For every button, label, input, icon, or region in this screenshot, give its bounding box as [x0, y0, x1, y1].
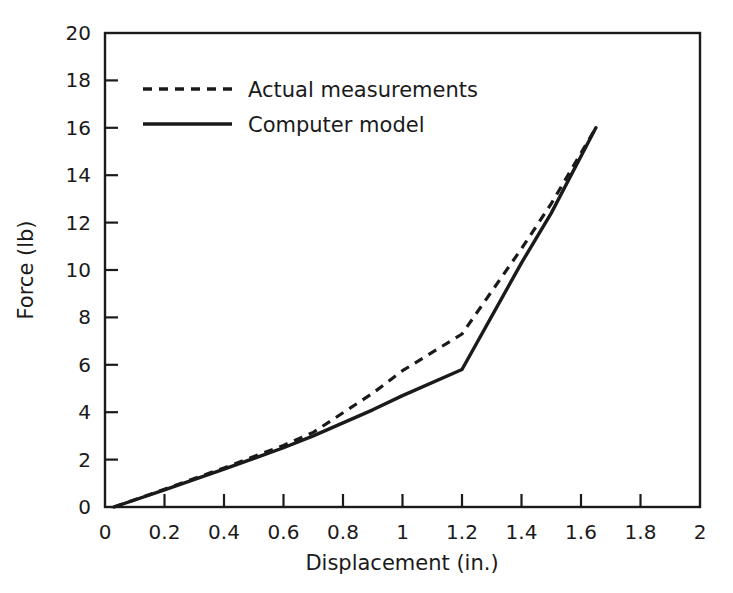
y-tick-label: 20	[66, 21, 91, 45]
y-tick-label: 0	[78, 495, 91, 519]
x-tick-label: 0.4	[208, 520, 240, 544]
y-tick-label: 8	[78, 305, 91, 329]
x-tick-label: 1.4	[506, 520, 538, 544]
x-tick-label: 0.2	[149, 520, 181, 544]
x-tick-label: 0.8	[327, 520, 359, 544]
y-tick-label: 4	[78, 400, 91, 424]
x-axis-title: Displacement (in.)	[305, 551, 498, 575]
y-tick-label: 14	[66, 163, 91, 187]
legend-label-computer-model: Computer model	[248, 113, 424, 137]
legend-label-actual-measurements: Actual measurements	[248, 78, 478, 102]
y-tick-label: 16	[66, 116, 91, 140]
x-tick-label: 0	[99, 520, 112, 544]
x-tick-label: 1.6	[565, 520, 597, 544]
chart-figure: 00.20.40.60.811.21.41.61.82 024681012141…	[0, 0, 733, 593]
x-tick-label: 1.2	[446, 520, 478, 544]
y-axis-title: Force (lb)	[14, 220, 38, 319]
x-tick-label: 0.6	[268, 520, 300, 544]
x-tick-label: 1.8	[625, 520, 657, 544]
y-tick-label: 6	[78, 353, 91, 377]
x-tick-label: 2	[694, 520, 707, 544]
x-tick-label: 1	[396, 520, 409, 544]
y-tick-label: 10	[66, 258, 91, 282]
y-tick-label: 12	[66, 211, 91, 235]
force-displacement-chart: 00.20.40.60.811.21.41.61.82 024681012141…	[0, 0, 733, 593]
y-tick-label: 2	[78, 448, 91, 472]
y-tick-label: 18	[66, 68, 91, 92]
